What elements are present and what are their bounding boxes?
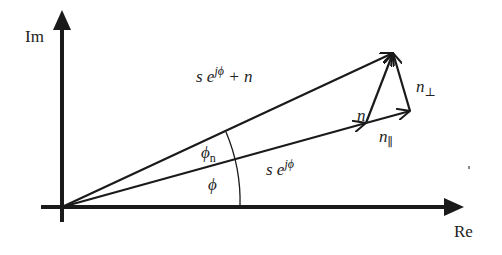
noise-perpendicular-sub: ⊥: [425, 85, 436, 99]
signal-plus-noise-sup: jϕ: [214, 64, 224, 78]
signal-main: s e: [266, 160, 284, 179]
phi-n-angle-label: ϕn: [201, 144, 216, 161]
noise-perpendicular-label: n⊥: [416, 78, 436, 95]
phi-n-main: ϕ: [201, 143, 210, 162]
signal-plus-noise-tail: + n: [224, 67, 252, 86]
imaginary-axis: [53, 10, 71, 222]
re-axis-arrowhead-icon: [444, 198, 464, 216]
real-axis: [41, 198, 464, 216]
phi-n-sub: n: [210, 151, 216, 165]
noise-parallel-sub: ∥: [388, 135, 394, 149]
noise-parallel-main: n: [379, 127, 388, 146]
noise-parallel-vector: [366, 111, 410, 123]
signal-plus-noise-label: s ejϕ + n: [196, 68, 252, 85]
im-axis-arrowhead-icon: [53, 10, 71, 30]
signal-label: s ejϕ: [266, 161, 294, 178]
noise-label: n: [357, 107, 366, 124]
noise-parallel-label: n∥: [379, 128, 393, 145]
re-axis-label: Re: [454, 223, 473, 240]
im-axis-label: Im: [25, 28, 44, 45]
signal-plus-noise-main: s e: [196, 67, 214, 86]
noise-perpendicular-main: n: [416, 77, 425, 96]
speck: [468, 166, 470, 169]
signal-sup: jϕ: [284, 157, 294, 171]
noise-perpendicular-vector: [393, 53, 410, 111]
phi-angle-label: ϕ: [208, 176, 217, 193]
phasor-diagram: [0, 0, 502, 255]
angle-arc: [226, 132, 240, 207]
